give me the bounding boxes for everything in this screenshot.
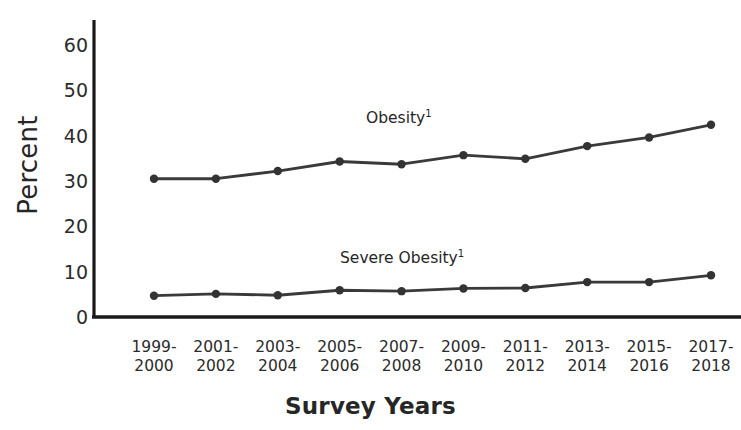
x-axis-tick-2: 2003-2004 bbox=[243, 338, 313, 376]
data-point bbox=[150, 175, 158, 183]
x-axis-tick-8: 2015-2016 bbox=[614, 338, 684, 376]
data-point bbox=[335, 157, 343, 165]
x-axis-tick-6: 2011-2012 bbox=[490, 338, 560, 376]
x-axis-tick-5: 2009-2010 bbox=[428, 338, 498, 376]
data-point bbox=[212, 290, 220, 298]
series-obesity bbox=[150, 121, 715, 183]
data-point bbox=[274, 167, 282, 175]
x-axis-title: Survey Years bbox=[0, 393, 741, 419]
data-point bbox=[583, 278, 591, 286]
data-point bbox=[583, 142, 591, 150]
data-point bbox=[645, 133, 653, 141]
data-point bbox=[150, 291, 158, 299]
x-axis-tick-0: 1999-2000 bbox=[119, 338, 189, 376]
data-point bbox=[397, 287, 405, 295]
data-point bbox=[212, 175, 220, 183]
data-point bbox=[274, 291, 282, 299]
series-label-severe-obesity: Severe Obesity1 bbox=[340, 248, 464, 267]
data-point bbox=[521, 155, 529, 163]
data-point bbox=[459, 284, 467, 292]
data-point bbox=[707, 121, 715, 129]
x-axis-tick-1: 2001-2002 bbox=[181, 338, 251, 376]
data-point bbox=[521, 284, 529, 292]
data-point bbox=[707, 271, 715, 279]
chart-container: Percent 6050403020100 1999-20002001-2002… bbox=[0, 0, 741, 430]
x-axis-tick-7: 2013-2014 bbox=[552, 338, 622, 376]
data-point bbox=[397, 160, 405, 168]
series-severe-obesity bbox=[150, 271, 715, 300]
x-axis-tick-9: 2017-2018 bbox=[676, 338, 741, 376]
data-point bbox=[335, 286, 343, 294]
x-axis-tick-4: 2007-2008 bbox=[367, 338, 437, 376]
series-label-obesity: Obesity1 bbox=[366, 108, 432, 127]
x-axis-tick-3: 2005-2006 bbox=[305, 338, 375, 376]
data-point bbox=[645, 278, 653, 286]
data-point bbox=[459, 151, 467, 159]
